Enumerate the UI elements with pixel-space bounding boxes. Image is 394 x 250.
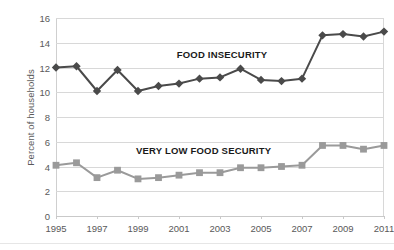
data-point	[196, 169, 203, 176]
data-point	[380, 27, 388, 35]
y-tick-2: 2	[45, 186, 50, 197]
data-point	[94, 174, 101, 181]
food-security-line-chart: Percent of households 0246810121416 1995…	[0, 0, 394, 250]
y-axis-title: Percent of households	[25, 33, 36, 203]
data-point	[339, 30, 347, 38]
data-point	[155, 174, 162, 181]
x-tick-mark-2001	[179, 216, 180, 219]
x-tick-mark-2003	[220, 216, 221, 219]
series-line-0	[56, 32, 384, 91]
y-tick-0: 0	[45, 211, 50, 222]
plot-area: 0246810121416 19951997199920012003200520…	[56, 18, 384, 216]
x-tick-mark-2007	[302, 216, 303, 219]
x-tick-mark-2009	[343, 216, 344, 219]
x-tick-mark-2005	[261, 216, 262, 219]
series-label-1: VERY LOW FOOD SECURITY	[136, 145, 271, 156]
data-point	[258, 164, 265, 171]
data-point	[195, 74, 203, 82]
data-point	[340, 142, 347, 149]
data-point	[236, 65, 244, 73]
data-point	[176, 172, 183, 179]
series-layer	[56, 18, 384, 216]
y-tick-14: 14	[39, 37, 50, 48]
y-tick-16: 16	[39, 13, 50, 24]
x-tick-2003: 2003	[209, 223, 230, 234]
x-tick-2007: 2007	[291, 223, 312, 234]
data-point	[359, 32, 367, 40]
series-label-0: FOOD INSECURITY	[177, 49, 268, 60]
data-point	[277, 77, 285, 85]
data-point	[278, 163, 285, 170]
x-tick-1997: 1997	[86, 223, 107, 234]
x-tick-1999: 1999	[127, 223, 148, 234]
data-point	[135, 175, 142, 182]
data-point	[318, 31, 326, 39]
data-point	[53, 162, 60, 169]
x-tick-mark-1997	[97, 216, 98, 219]
data-point	[114, 167, 121, 174]
y-tick-8: 8	[45, 112, 50, 123]
data-point	[381, 142, 388, 149]
x-tick-2011: 2011	[374, 223, 394, 234]
data-point	[237, 164, 244, 171]
data-point	[175, 79, 183, 87]
y-tick-10: 10	[39, 87, 50, 98]
y-tick-6: 6	[45, 136, 50, 147]
footer-divider	[0, 243, 394, 244]
x-tick-2001: 2001	[168, 223, 189, 234]
data-point	[216, 73, 224, 81]
x-tick-2005: 2005	[250, 223, 271, 234]
data-point	[217, 169, 224, 176]
x-tick-mark-1999	[138, 216, 139, 219]
x-tick-mark-2011	[384, 216, 385, 219]
data-point	[298, 74, 306, 82]
y-tick-12: 12	[39, 62, 50, 73]
data-point	[319, 142, 326, 149]
data-point	[257, 76, 265, 84]
data-point	[52, 63, 60, 71]
y-tick-4: 4	[45, 161, 50, 172]
x-tick-mark-1995	[56, 216, 57, 219]
series-food-insecurity	[52, 27, 388, 95]
data-point	[299, 162, 306, 169]
x-tick-2009: 2009	[332, 223, 353, 234]
data-point	[360, 146, 367, 153]
x-tick-1995: 1995	[45, 223, 66, 234]
data-point	[154, 82, 162, 90]
data-point	[73, 159, 80, 166]
